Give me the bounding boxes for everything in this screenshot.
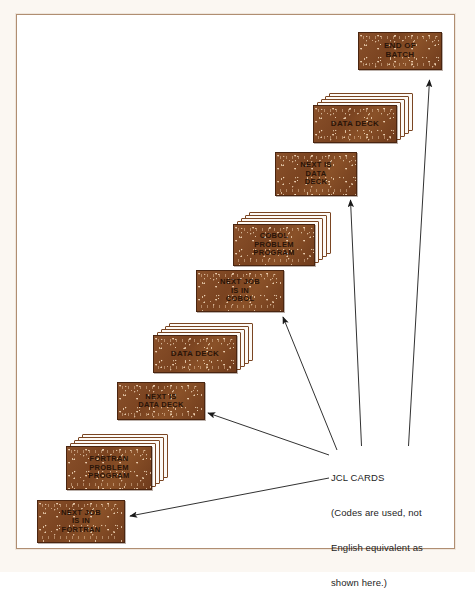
card-end-of-batch[interactable]: END OF BATCH xyxy=(358,32,442,70)
annotation-note-line-1: (Codes are used, not xyxy=(331,507,461,519)
card-line: DATA DECK xyxy=(138,401,183,409)
card-fortran-problem-program[interactable]: FORTRAN PROBLEM PROGRAM xyxy=(66,446,152,490)
card-line: DATA DECK xyxy=(171,350,219,359)
card-line: FORTRAN xyxy=(62,526,101,534)
deck-data-deck-lower[interactable]: DATA DECK xyxy=(153,323,253,373)
card-line: BATCH xyxy=(386,51,415,60)
card-line: PROGRAM xyxy=(88,472,129,480)
card-line: COBOL xyxy=(226,295,255,303)
deck-fortran-problem-program[interactable]: FORTRAN PROBLEM PROGRAM xyxy=(66,434,170,490)
card-next-is-data-deck-lower[interactable]: NEXT IS DATA DECK xyxy=(117,382,205,420)
card-line: DATA DECK xyxy=(331,120,379,129)
card-data-deck-lower[interactable]: DATA DECK xyxy=(153,335,237,373)
annotation-note-line-2: English equivalent as xyxy=(331,542,461,554)
annotation-note-line-3: shown here.) xyxy=(331,577,461,589)
card-next-is-data-deck-upper[interactable]: NEXT IS DATA DECK xyxy=(275,152,357,196)
card-data-deck-upper[interactable]: DATA DECK xyxy=(313,105,397,143)
card-line: DECK xyxy=(305,178,327,186)
deck-cobol-problem-program[interactable]: COBOL PROBLEM PROGRAM xyxy=(233,212,333,266)
deck-data-deck-upper[interactable]: DATA DECK xyxy=(313,93,413,143)
card-line: PROGRAM xyxy=(253,249,294,257)
jcl-cards-annotation: JCL CARDS (Codes are used, not English e… xyxy=(331,449,461,592)
card-cobol-problem-program[interactable]: COBOL PROBLEM PROGRAM xyxy=(233,224,315,266)
annotation-heading: JCL CARDS xyxy=(331,472,461,484)
card-next-job-is-in-cobol[interactable]: NEXT JOB IS IN COBOL xyxy=(196,270,284,312)
card-next-job-is-in-fortran[interactable]: NEXT JOB IS IN FORTRAN xyxy=(37,500,125,543)
